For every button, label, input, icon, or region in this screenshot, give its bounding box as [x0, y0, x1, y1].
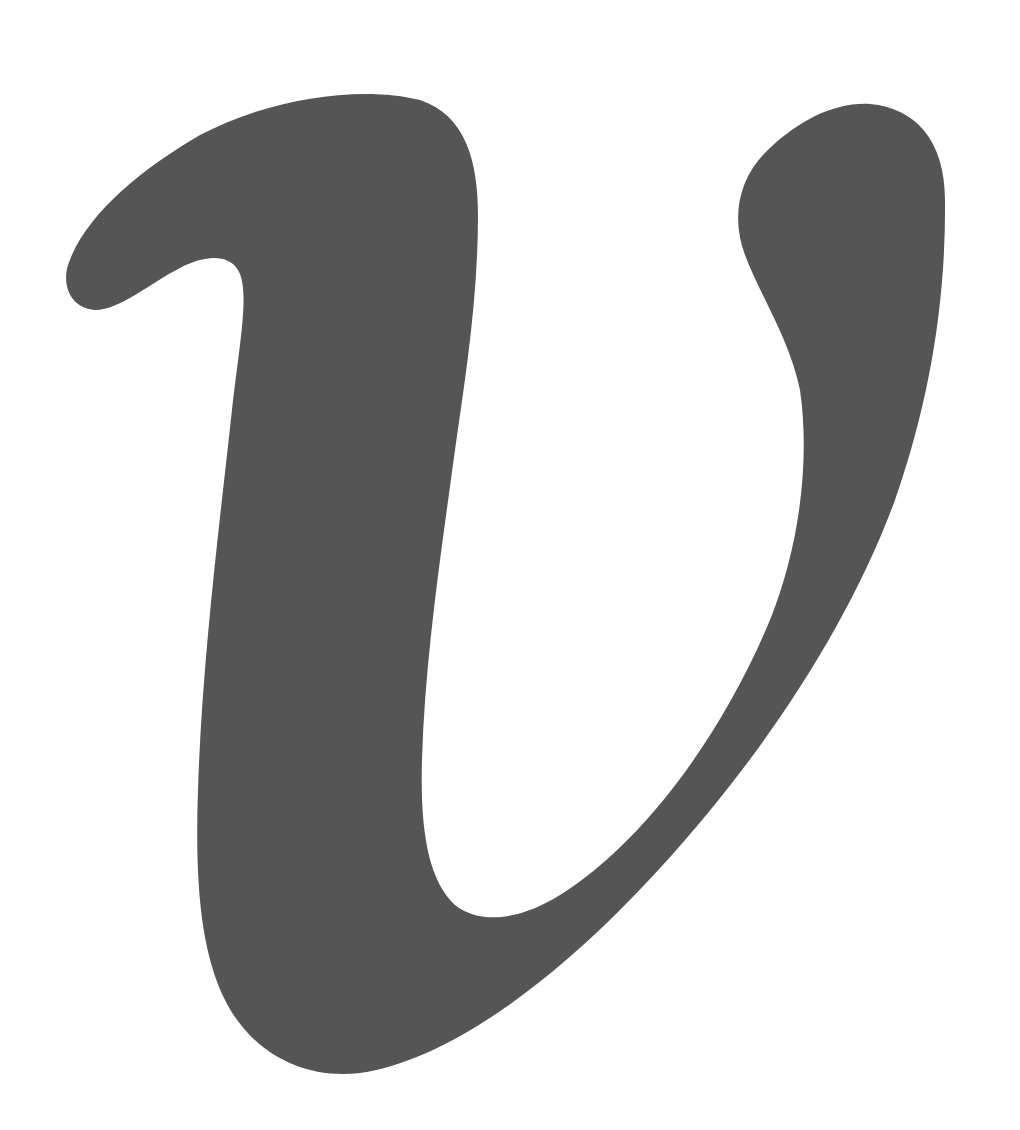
glyph-canvas: v [0, 0, 1020, 1130]
letter-v-shape [66, 94, 945, 1074]
letter-v-glyph [0, 0, 1020, 1130]
